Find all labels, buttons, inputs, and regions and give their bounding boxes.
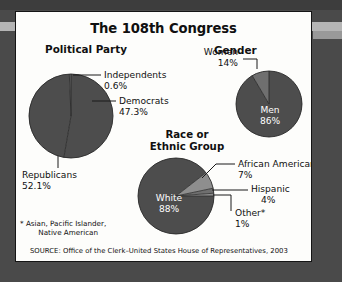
label-other-value: 1%	[235, 219, 249, 229]
label-hispanic-value: 4%	[261, 195, 275, 205]
leader-line-other	[213, 195, 231, 211]
label-african-american-value: 7%	[238, 170, 252, 180]
source-divider	[25, 242, 303, 243]
scan-streak-right	[313, 31, 342, 39]
label-african-american-name: African American	[238, 159, 312, 169]
source-line: SOURCE: Office of the Clerk–United State…	[30, 248, 310, 256]
page-background-top-band	[0, 0, 342, 10]
infographic-panel: The 108th Congress Political Party Indep…	[15, 11, 312, 262]
label-white-value: 88%	[144, 204, 194, 214]
label-other-name: Other*	[235, 208, 265, 218]
label-hispanic-name: Hispanic	[251, 184, 290, 194]
footnote: * Asian, Pacific Islander, Native Americ…	[20, 219, 180, 238]
label-white-name: White	[144, 193, 194, 203]
